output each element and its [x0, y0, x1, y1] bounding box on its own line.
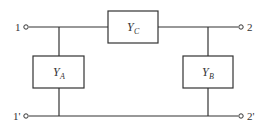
pi-network-diagram: Y C Y A Y B 1 1' 2 2': [0, 0, 269, 126]
element-yc: Y C: [108, 11, 158, 43]
terminal-2-node: [239, 25, 243, 29]
yc-subscript: C: [134, 27, 140, 36]
element-ya: Y A: [33, 56, 84, 88]
terminal-2prime-node: [239, 114, 243, 118]
element-yb: Y B: [183, 56, 233, 88]
terminal-2prime-label: 2': [247, 110, 255, 122]
yb-subscript: B: [209, 72, 214, 81]
ya-subscript: A: [59, 72, 65, 81]
terminal-1prime-node: [24, 114, 28, 118]
terminal-1-node: [24, 25, 28, 29]
terminal-1-label: 1: [15, 21, 21, 33]
terminal-1prime-label: 1': [13, 110, 21, 122]
terminal-2-label: 2: [247, 21, 253, 33]
